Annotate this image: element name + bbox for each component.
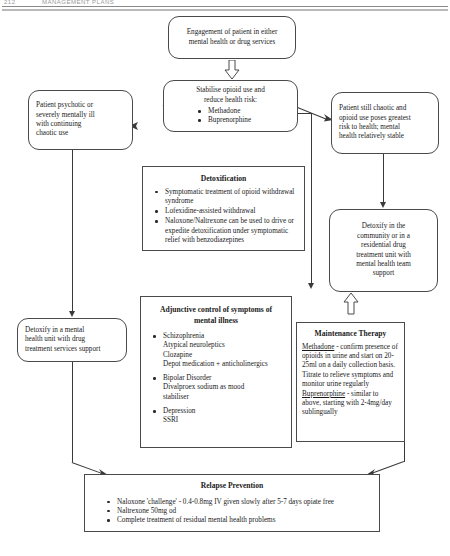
relapse-title: Relapse Prevention	[85, 481, 379, 491]
detoxification-bullet-0: Symptomatic treatment of opioid withdraw…	[165, 188, 294, 205]
page-header-left: 212	[4, 0, 34, 5]
detoxification-title: Detoxification	[143, 174, 304, 184]
bullet-icon	[155, 191, 158, 194]
list-item: Bipolar Disorder Divalproex sodium as mo…	[163, 374, 285, 402]
maintenance-body: Methadone - confirm presence of opioids …	[297, 343, 404, 418]
list-item: Buprenorphine	[208, 116, 291, 125]
arrow-head-detox-mental	[69, 311, 75, 317]
relapse-bullet-0: Naloxone 'challenge' - 0.4-0.8mg IV give…	[117, 498, 334, 506]
maintenance-title: Maintenance Therapy	[297, 329, 404, 339]
node-detox-community: Detoxify in the community or in a reside…	[329, 209, 438, 292]
bullet-icon	[107, 501, 110, 504]
detox-community-line2: community or in a	[330, 232, 437, 241]
node-maintenance: Maintenance Therapy Methadone - confirm …	[296, 322, 405, 442]
chaotic-line2: opioid use poses greatest	[332, 114, 438, 123]
bullet-icon	[198, 110, 201, 113]
adjunctive-group-1-sub-1: stabiliser	[163, 393, 285, 402]
detoxification-bullet-1: Lofexidine-assisted withdrawal	[165, 207, 255, 215]
engagement-line1: Engagement of patient in either	[169, 28, 295, 37]
psychotic-line4: chaotic use	[29, 129, 132, 138]
stabilise-line2: reduce health risk:	[164, 96, 297, 105]
bullet-icon	[155, 220, 158, 223]
arrow-head-adjunctive	[308, 283, 314, 289]
node-patient-chaotic: Patient still chaotic and opioid use pos…	[331, 92, 439, 154]
bullet-icon	[155, 210, 158, 213]
adjunctive-groups: Schizophrenia Atypical neuroleptics Cloz…	[141, 332, 291, 431]
stabilise-bullet-0: Methadone	[208, 107, 240, 115]
list-item: Lofexidine-assisted withdrawal	[165, 207, 298, 216]
engagement-line2: mental health or drug services	[169, 38, 295, 47]
list-item: Schizophrenia Atypical neuroleptics Cloz…	[163, 332, 285, 369]
adjunctive-group-2-sub-0: SSRI	[163, 416, 285, 425]
adjunctive-title-line2: mental illness	[141, 316, 291, 326]
maintenance-drug-1: Methadone	[302, 343, 334, 351]
header-rule-bottom	[2, 9, 448, 11]
bullet-icon	[107, 519, 110, 522]
list-item: Symptomatic treatment of opioid withdraw…	[165, 188, 298, 207]
node-patient-psychotic: Patient psychotic or severely mentally i…	[28, 90, 133, 150]
page-header-right: MANAGEMENT PLANS	[42, 0, 242, 5]
list-item: Depression SSRI	[163, 407, 285, 426]
list-item: Naloxone/Naltrexone can be used to drive…	[165, 217, 298, 245]
list-item: Naltrexone 50mg od	[117, 507, 373, 516]
maintenance-drug-2: Buprenorphine	[302, 390, 345, 398]
edge-stabilise-to-adjunctive	[311, 113, 312, 285]
relapse-bullet-1: Naltrexone 50mg od	[117, 507, 176, 515]
adjunctive-group-2-head: Depression	[163, 407, 195, 415]
edge-detox-mental-to-relapse-v	[72, 362, 73, 462]
chaotic-line1: Patient still chaotic and	[332, 104, 438, 113]
chaotic-line3: risk to health; mental	[332, 123, 438, 132]
list-item: Naloxone 'challenge' - 0.4-0.8mg IV give…	[117, 498, 373, 507]
detox-community-line1: Detoxify in the	[330, 222, 437, 231]
block-arrow-detox-community-to-maintenance	[343, 293, 359, 315]
adjunctive-group-0-sub-0: Atypical neuroleptics	[163, 341, 285, 350]
detox-community-line3: residential drug	[330, 241, 437, 250]
arrow-head-detox-community	[380, 202, 386, 208]
adjunctive-title-line1: Adjunctive control of symptoms of	[141, 305, 291, 315]
stabilise-bullet-1: Buprenorphine	[208, 116, 251, 124]
header-rule-top	[2, 6, 448, 7]
node-adjunctive: Adjunctive control of symptoms of mental…	[140, 296, 292, 448]
adjunctive-group-0-head: Schizophrenia	[163, 332, 204, 340]
edge-stabilise-right-stub	[298, 113, 312, 114]
detoxification-bullets: Symptomatic treatment of opioid withdraw…	[143, 188, 304, 247]
list-item: Methadone	[208, 107, 291, 116]
detox-community-line6: support	[330, 269, 437, 278]
bullet-icon	[153, 377, 156, 380]
bullet-icon	[153, 410, 156, 413]
flowchart-canvas: 212 MANAGEMENT PLANS Engagement of patie…	[0, 0, 450, 556]
block-arrow-engagement-to-stabilise	[224, 60, 240, 80]
detox-community-line5: mental health team	[330, 260, 437, 269]
edge-psychotic-to-detox-mental	[72, 150, 73, 313]
bullet-icon	[153, 335, 156, 338]
detoxification-bullet-2: Naloxone/Naltrexone can be used to drive…	[165, 217, 294, 244]
stabilise-bullets: Methadone Buprenorphine	[164, 107, 297, 126]
list-item: Complete treatment of residual mental he…	[117, 516, 373, 525]
bullet-icon	[107, 510, 110, 513]
detox-mental-line1: Detoxify in a mental	[18, 326, 126, 335]
psychotic-line3: with continuing	[29, 120, 132, 129]
adjunctive-group-0-sub-2: Depot medication + anticholinergics	[163, 360, 285, 369]
chaotic-line4: health relatively stable	[332, 132, 438, 141]
node-engagement: Engagement of patient in either mental h…	[168, 16, 296, 59]
detox-mental-line3: treatment services support	[18, 345, 126, 354]
detox-mental-line2: health unit with drug	[18, 335, 126, 344]
node-detoxification: Detoxification Symptomatic treatment of …	[142, 166, 305, 251]
stabilise-line1: Stabilise opioid use and	[164, 86, 297, 95]
node-detox-mental: Detoxify in a mental health unit with dr…	[17, 318, 127, 362]
adjunctive-group-1-sub-0: Divalproex sodium as mood	[163, 383, 285, 392]
relapse-bullets: Naloxone 'challenge' - 0.4-0.8mg IV give…	[85, 498, 379, 526]
node-stabilise: Stabilise opioid use and reduce health r…	[163, 80, 298, 132]
adjunctive-group-0-sub-1: Clozapine	[163, 351, 285, 360]
psychotic-line2: severely mentally ill	[29, 111, 132, 120]
relapse-bullet-2: Complete treatment of residual mental he…	[117, 516, 275, 524]
detox-community-line4: treatment unit with	[330, 251, 437, 260]
edge-chaotic-to-detox-community	[383, 154, 384, 203]
bullet-icon	[198, 119, 201, 122]
node-relapse-prevention: Relapse Prevention Naloxone 'challenge' …	[84, 474, 380, 532]
psychotic-line1: Patient psychotic or	[29, 101, 132, 110]
adjunctive-group-1-head: Bipolar Disorder	[163, 374, 212, 382]
